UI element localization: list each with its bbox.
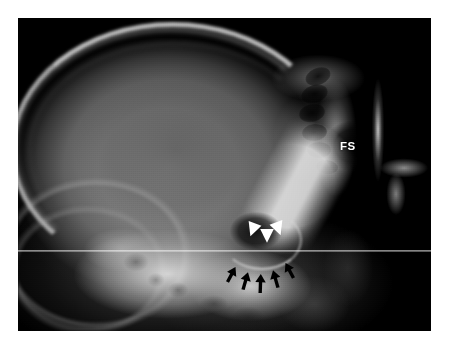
ethmoid-air-cell [307,142,331,158]
arrow-3-icon [254,274,268,293]
arrow-2-icon [237,271,254,292]
arrow-4-icon [267,269,284,290]
horizontal-scan-line-artifact [18,250,431,252]
figure-page: FS [0,0,449,347]
arrow-5-icon [280,260,299,281]
lateral-skull-radiograph: FS [18,18,431,331]
frontal-sinus-label: FS [340,140,356,152]
